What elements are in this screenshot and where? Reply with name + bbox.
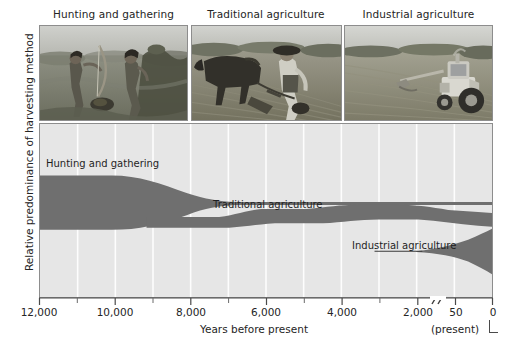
panel-title-hunting-and-gathering: Hunting and gathering bbox=[39, 8, 188, 20]
x-tick-label-8000: 8,000 bbox=[176, 306, 206, 318]
x-tick-label-2000: 2,000 bbox=[403, 306, 433, 318]
present-annotation: (present) bbox=[431, 323, 479, 335]
figure-container: Hunting and gathering Traditional agricu… bbox=[0, 0, 508, 347]
x-tick-label-4000: 4,000 bbox=[327, 306, 357, 318]
y-axis-title: Relative predominance of harvesting meth… bbox=[23, 41, 35, 271]
x-tick-label-0: 0 bbox=[490, 306, 497, 318]
band-label-traditional-agriculture: Traditional agriculture bbox=[213, 199, 323, 210]
x-tick-label-50: 50 bbox=[449, 306, 462, 318]
hunting-and-gathering-photo bbox=[39, 25, 188, 121]
band-label-hunting-and-gathering: Hunting and gathering bbox=[46, 158, 159, 169]
band-label-industrial-agriculture: Industrial agriculture bbox=[352, 240, 456, 251]
traditional-agriculture-photo bbox=[191, 25, 342, 121]
x-tick-label-6000: 6,000 bbox=[251, 306, 281, 318]
chart-bands-svg bbox=[40, 124, 492, 297]
present-bracket-icon bbox=[489, 320, 498, 333]
panel-title-traditional-agriculture: Traditional agriculture bbox=[190, 8, 342, 20]
x-tick-label-10000: 10,000 bbox=[97, 306, 134, 318]
industrial-agriculture-photo bbox=[344, 25, 493, 121]
panel-title-industrial-agriculture: Industrial agriculture bbox=[344, 8, 493, 20]
x-tick-label-12000: 12,000 bbox=[21, 306, 58, 318]
chart-plot-area bbox=[39, 123, 493, 298]
